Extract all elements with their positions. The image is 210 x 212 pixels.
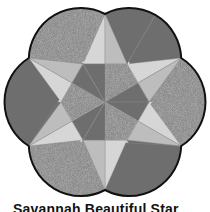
star-quilt-block	[0, 0, 210, 200]
block-caption: Savannah Beautiful Star	[13, 201, 179, 212]
quilt-pieces	[0, 0, 210, 200]
